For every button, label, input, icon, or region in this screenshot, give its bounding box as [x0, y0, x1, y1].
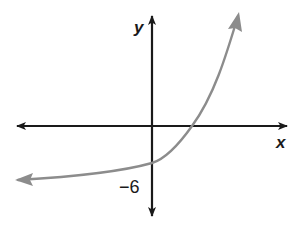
exponential-curve: [18, 16, 238, 180]
y-intercept-label: −6: [119, 177, 140, 197]
exponential-graph: y x −6: [0, 0, 293, 228]
y-axis-label: y: [133, 18, 145, 37]
x-axis-label: x: [275, 133, 287, 152]
